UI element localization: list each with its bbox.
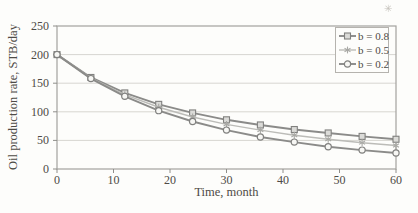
circle-marker-icon	[257, 134, 263, 140]
circle-marker-icon	[325, 144, 331, 150]
y-tick-label: 200	[31, 48, 49, 62]
circle-marker-icon	[156, 108, 162, 114]
square-marker-icon	[345, 33, 351, 39]
circle-marker-icon	[88, 76, 94, 82]
circle-marker-icon	[339, 59, 356, 69]
circle-marker-icon	[54, 52, 60, 58]
square-marker-icon	[359, 133, 365, 139]
y-tick-label: 100	[31, 105, 49, 119]
legend-item-b-0-2: b = 0.2	[339, 57, 388, 71]
circle-marker-icon	[344, 61, 350, 67]
y-tick-label: 250	[31, 19, 49, 33]
square-marker-icon	[339, 31, 356, 41]
y-tick-label: 50	[37, 133, 49, 147]
circle-marker-icon	[190, 118, 196, 124]
legend: b = 0.8 b = 0.5 b = 0.2	[335, 27, 389, 73]
legend-label: b = 0.8	[358, 29, 389, 43]
circle-marker-icon	[359, 147, 365, 153]
circle-marker-icon	[223, 127, 229, 133]
scan-artifact: ✳	[384, 3, 392, 14]
square-marker-icon	[325, 130, 331, 136]
legend-label: b = 0.5	[358, 43, 389, 57]
y-tick-label: 150	[31, 76, 49, 90]
legend-item-b-0-8: b = 0.8	[339, 29, 388, 43]
circle-marker-icon	[122, 93, 128, 99]
square-marker-icon	[393, 136, 399, 142]
circle-marker-icon	[291, 139, 297, 145]
asterisk-marker-glyph	[339, 45, 356, 55]
y-axis-title: Oil production rate, STB/day	[6, 22, 22, 172]
circle-marker-icon	[393, 150, 399, 156]
x-axis-title: Time, month	[57, 185, 396, 200]
square-marker-glyph	[339, 31, 356, 41]
legend-label: b = 0.2	[358, 57, 389, 71]
asterisk-marker-icon	[339, 45, 356, 55]
square-marker-icon	[291, 127, 297, 133]
y-tick-label: 0	[43, 162, 49, 176]
decline-curve-figure: 0501001502002500102030405060 Oil product…	[0, 0, 418, 213]
legend-item-b-0-5: b = 0.5	[339, 43, 388, 57]
circle-marker-glyph	[339, 59, 356, 69]
